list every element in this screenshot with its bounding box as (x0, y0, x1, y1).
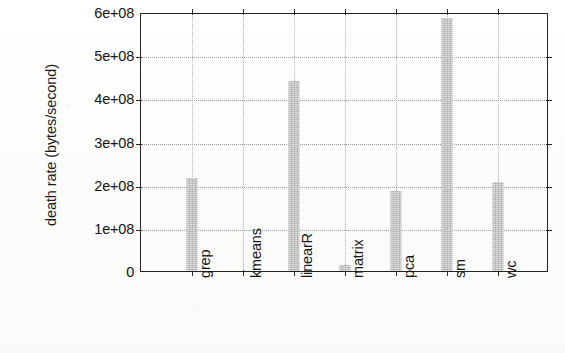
x-axis-tick-label-text: kmeans (248, 228, 264, 278)
grid-line-horizontal (141, 230, 547, 231)
y-axis-tick-mark (546, 100, 552, 101)
y-axis-tick-mark (546, 144, 552, 145)
x-axis-tick-label-pca: pca (401, 255, 417, 278)
x-axis-tick-mark (498, 9, 499, 15)
x-axis-tick-label-grep: grep (197, 250, 213, 278)
bar-wc (493, 182, 504, 271)
x-axis-tick-mark (396, 9, 397, 15)
grid-line-horizontal (141, 57, 547, 58)
x-axis-tick-label-wc: wc (503, 261, 519, 278)
grid-line-horizontal (141, 100, 547, 101)
y-axis-tick-label: 4e+08 (42, 91, 134, 107)
x-axis-tick-mark (294, 9, 295, 15)
bar-sm (442, 18, 453, 271)
x-axis-tick-label-sm: sm (452, 259, 468, 278)
y-axis-tick-mark (546, 187, 552, 188)
y-axis-tick-label: 3e+08 (42, 135, 134, 151)
grid-line-vertical (345, 14, 346, 271)
y-axis-tick-mark (546, 57, 552, 58)
x-axis-tick-label-text: pca (401, 255, 417, 278)
y-axis-tick-mark (136, 230, 142, 231)
y-axis-tick-labels: 01e+082e+083e+084e+085e+086e+08 (38, 0, 134, 353)
x-axis-tick-labels: grepkmeanslinearRmatrixpcasmwc (140, 278, 548, 353)
x-axis-tick-label-text: sm (452, 259, 468, 278)
y-axis-tick-label: 2e+08 (42, 178, 134, 194)
y-axis-tick-mark (136, 144, 142, 145)
grid-line-horizontal (141, 144, 547, 145)
x-axis-tick-label-matrix: matrix (350, 239, 366, 278)
grid-line-vertical (243, 14, 244, 271)
y-axis-tick-mark (136, 187, 142, 188)
bar-pca (391, 191, 402, 271)
y-axis-tick-mark (546, 230, 552, 231)
y-axis-tick-label: 5e+08 (42, 48, 134, 64)
x-axis-tick-label-text: linearR (299, 233, 315, 278)
bar-grep (187, 178, 198, 271)
x-axis-tick-label-text: matrix (350, 239, 366, 278)
x-axis-tick-label-kmeans: kmeans (248, 228, 264, 278)
x-axis-tick-label-text: grep (197, 250, 213, 278)
x-axis-tick-mark (243, 9, 244, 15)
y-axis-tick-mark (136, 100, 142, 101)
x-axis-tick-mark (447, 9, 448, 15)
x-axis-tick-mark (345, 9, 346, 15)
bar-chart-figure: death rate (bytes/second) 01e+082e+083e+… (0, 0, 565, 353)
plot-area (140, 13, 548, 272)
x-axis-tick-mark (192, 9, 193, 15)
grid-line-horizontal (141, 187, 547, 188)
x-axis-tick-label-text: wc (503, 261, 519, 278)
y-axis-tick-label: 0 (42, 264, 134, 280)
y-axis-tick-label: 1e+08 (42, 221, 134, 237)
y-axis-tick-mark (136, 57, 142, 58)
bar-matrix (340, 265, 351, 271)
y-axis-tick-label: 6e+08 (42, 5, 134, 21)
bar-linearR (289, 81, 300, 271)
x-axis-tick-mark (243, 270, 244, 276)
x-axis-tick-label-linearR: linearR (299, 233, 315, 278)
